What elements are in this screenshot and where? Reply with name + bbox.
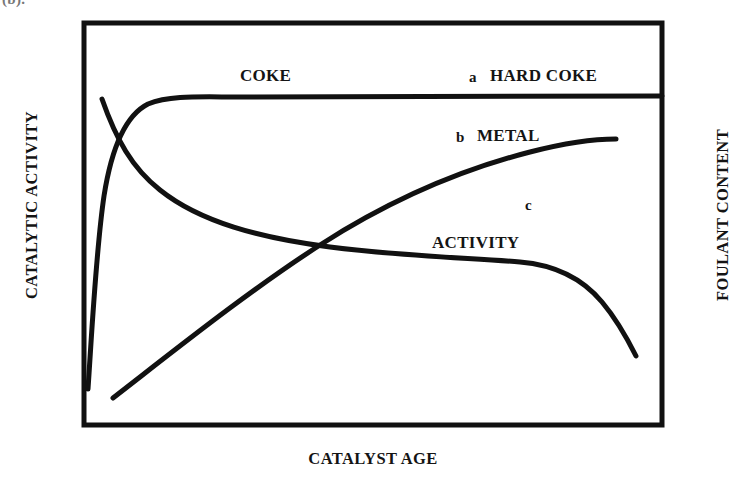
x-axis-title: CATALYST AGE [84, 449, 662, 469]
curve-label-hard-coke: HARD COKE [490, 66, 597, 86]
curve-key-a: a [469, 69, 477, 86]
curve-label-activity: ACTIVITY [432, 233, 519, 253]
y-axis-left-title: CATALYTIC ACTIVITY [20, 35, 44, 375]
curve-label-coke: COKE [240, 66, 291, 86]
chart-canvas [0, 0, 743, 479]
y-axis-right-title: FOULANT CONTENT [711, 45, 735, 385]
curve-key-c: c [525, 197, 532, 214]
figure-root: (b). CATALYTIC ACTIVITY FOULANT CONTENT … [0, 0, 743, 479]
curve-key-b: b [456, 129, 464, 146]
curve-label-metal: METAL [477, 126, 540, 146]
